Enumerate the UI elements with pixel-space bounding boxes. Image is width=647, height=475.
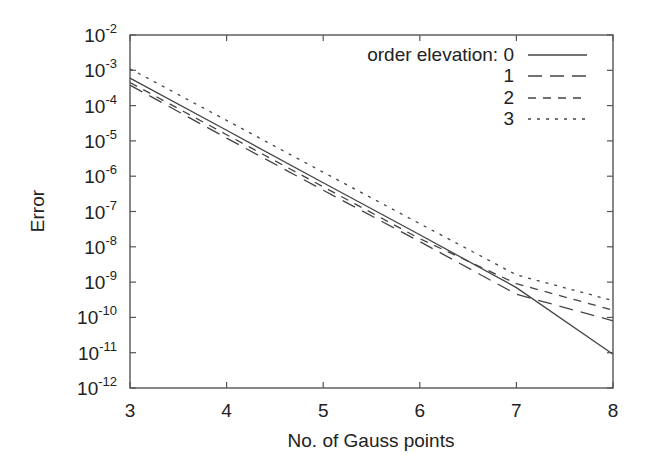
- y-tick-label: 10-12: [77, 374, 117, 399]
- data-series: [130, 69, 613, 355]
- x-axis-ticks: 345678: [125, 35, 619, 421]
- legend-label-order-0: order elevation: 0: [367, 44, 514, 65]
- y-tick-label: 10-7: [84, 198, 117, 223]
- legend-label-order-3: 3: [503, 108, 514, 129]
- y-tick-label: 10-2: [84, 21, 117, 46]
- plot-frame: [130, 35, 613, 388]
- y-axis-ticks: 10-210-310-410-510-610-710-810-910-1010-…: [77, 21, 613, 399]
- y-tick-label: 10-9: [84, 268, 117, 293]
- x-tick-label: 8: [608, 400, 619, 421]
- x-axis-label: No. of Gauss points: [288, 430, 455, 451]
- y-tick-label: 10-8: [84, 233, 117, 258]
- legend-label-order-1: 1: [503, 65, 514, 86]
- x-tick-label: 4: [221, 400, 232, 421]
- x-tick-label: 6: [415, 400, 426, 421]
- series-line-order-1: [130, 85, 613, 321]
- y-tick-label: 10-6: [84, 162, 117, 187]
- series-line-order-3: [130, 69, 613, 301]
- legend-label-order-2: 2: [503, 87, 514, 108]
- legend: order elevation: 0123: [367, 44, 587, 129]
- x-tick-label: 5: [318, 400, 329, 421]
- error-vs-gauss-points-chart: 10-210-310-410-510-610-710-810-910-1010-…: [0, 0, 647, 475]
- y-axis-label: Error: [27, 189, 48, 232]
- y-tick-label: 10-11: [78, 339, 117, 364]
- y-tick-label: 10-5: [84, 127, 117, 152]
- y-tick-label: 10-3: [84, 56, 117, 81]
- y-tick-label: 10-4: [84, 92, 117, 117]
- x-tick-label: 7: [511, 400, 522, 421]
- y-tick-label: 10-10: [77, 303, 117, 328]
- x-tick-label: 3: [125, 400, 136, 421]
